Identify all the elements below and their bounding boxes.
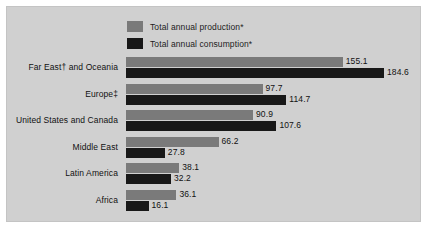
bar-value-label: 36.1	[176, 189, 196, 199]
bar-group: Africa36.116.1	[7, 188, 420, 215]
bar-production[interactable]	[126, 137, 219, 147]
bar-pair: 90.9107.6	[126, 110, 420, 132]
bar-production[interactable]	[126, 163, 179, 173]
bar-row: 114.7	[126, 95, 420, 105]
bar-consumption[interactable]	[126, 68, 384, 78]
category-label: Latin America	[0, 168, 118, 178]
bar-consumption[interactable]	[126, 121, 276, 131]
bar-pair: 155.1184.6	[126, 57, 420, 79]
bar-group: United States and Canada90.9107.6	[7, 108, 420, 135]
bar-group: Europe‡97.7114.7	[7, 82, 420, 109]
bar-production[interactable]	[126, 110, 253, 120]
bar-consumption[interactable]	[126, 148, 165, 158]
bar-row: 107.6	[126, 121, 420, 131]
bar-consumption[interactable]	[126, 174, 171, 184]
category-label: United States and Canada	[0, 115, 118, 125]
bar-row: 184.6	[126, 68, 420, 78]
chart-legend: Total annual production* Total annual co…	[127, 19, 367, 53]
bar-value-label: 27.8	[165, 147, 185, 157]
bar-row: 32.2	[126, 174, 420, 184]
bar-value-label: 155.1	[343, 56, 368, 66]
legend-label-consumption: Total annual consumption*	[150, 39, 252, 49]
bar-row: 155.1	[126, 57, 420, 67]
bar-consumption[interactable]	[126, 201, 149, 211]
category-label: Middle East	[0, 142, 118, 152]
bar-production[interactable]	[126, 190, 176, 200]
bar-row: 27.8	[126, 148, 420, 158]
bar-group: Latin America38.132.2	[7, 161, 420, 188]
bar-value-label: 90.9	[253, 109, 273, 119]
bar-pair: 38.132.2	[126, 163, 420, 185]
bar-production[interactable]	[126, 57, 343, 67]
legend-label-production: Total annual production*	[150, 22, 244, 32]
category-label: Europe‡	[0, 89, 118, 99]
category-label: Far East† and Oceania	[0, 62, 118, 72]
legend-swatch-production	[127, 21, 143, 32]
legend-item-production: Total annual production*	[127, 19, 367, 34]
bar-row: 16.1	[126, 201, 420, 211]
legend-swatch-consumption	[127, 38, 143, 49]
bar-value-label: 97.7	[263, 83, 283, 93]
bar-group: Far East† and Oceania155.1184.6	[7, 55, 420, 82]
bar-row: 66.2	[126, 137, 420, 147]
legend-item-consumption: Total annual consumption*	[127, 36, 367, 51]
bar-production[interactable]	[126, 84, 263, 94]
bar-value-label: 107.6	[276, 120, 301, 130]
bar-row: 97.7	[126, 84, 420, 94]
bar-row: 36.1	[126, 190, 420, 200]
bar-value-label: 32.2	[171, 173, 191, 183]
plot-area: Far East† and Oceania155.1184.6Europe‡97…	[7, 55, 420, 221]
chart-panel: Total annual production* Total annual co…	[6, 6, 421, 222]
bar-row: 38.1	[126, 163, 420, 173]
bar-pair: 36.116.1	[126, 190, 420, 212]
bar-pair: 97.7114.7	[126, 84, 420, 106]
category-label: Africa	[0, 195, 118, 205]
bar-consumption[interactable]	[126, 95, 286, 105]
bar-value-label: 184.6	[384, 67, 409, 77]
bar-group: Middle East66.227.8	[7, 135, 420, 162]
bar-value-label: 38.1	[179, 162, 199, 172]
bar-pair: 66.227.8	[126, 137, 420, 159]
bar-value-label: 16.1	[149, 200, 169, 210]
bar-value-label: 66.2	[219, 136, 239, 146]
bar-row: 90.9	[126, 110, 420, 120]
bar-value-label: 114.7	[286, 94, 310, 104]
